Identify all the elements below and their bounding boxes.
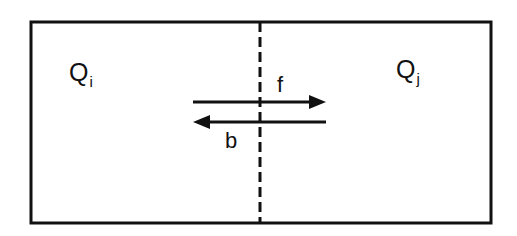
- region-label-qj: Qj: [396, 57, 420, 86]
- diagram-canvas: [0, 0, 517, 236]
- backward-flux-label: b: [225, 130, 237, 152]
- region-label-qi: Qi: [69, 60, 93, 89]
- forward-flux-label: f: [277, 74, 283, 96]
